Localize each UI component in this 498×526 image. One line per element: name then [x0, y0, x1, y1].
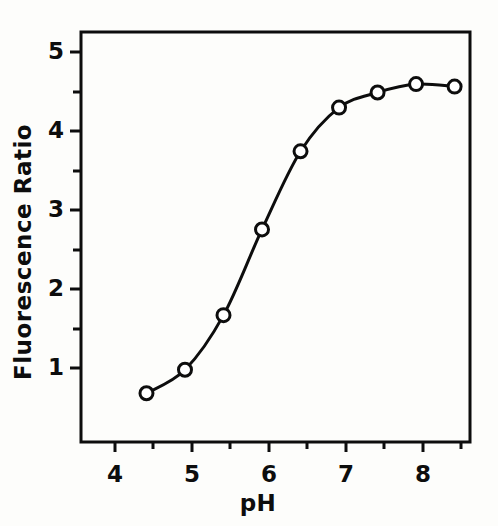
x-axis-title: pH — [240, 490, 277, 516]
y-tick-label-5: 5 — [48, 38, 64, 64]
x-tick-label-4: 4 — [107, 461, 123, 487]
data-point — [333, 101, 346, 114]
y-tick-label-2: 2 — [48, 275, 64, 301]
data-point — [140, 387, 153, 400]
y-tick-label-1: 1 — [48, 354, 64, 380]
data-point — [448, 80, 461, 93]
data-point — [178, 363, 191, 376]
x-tick-label-7: 7 — [338, 461, 354, 487]
x-tick-label-8: 8 — [415, 461, 431, 487]
data-point — [294, 145, 307, 158]
fluorescence-ratio-ph-chart: 4 5 6 7 8 1 2 3 4 5 pH Fluorescence Rati… — [0, 0, 498, 526]
y-tick-label-4: 4 — [48, 117, 64, 143]
y-tick-label-3: 3 — [48, 196, 64, 222]
data-point — [217, 309, 230, 322]
y-axis-title: Fluorescence Ratio — [10, 124, 36, 380]
data-point — [256, 223, 269, 236]
data-point — [410, 78, 423, 91]
x-tick-label-5: 5 — [184, 461, 200, 487]
data-point — [371, 86, 384, 99]
x-tick-label-6: 6 — [261, 461, 277, 487]
figure-container: 4 5 6 7 8 1 2 3 4 5 pH Fluorescence Rati… — [0, 0, 498, 526]
